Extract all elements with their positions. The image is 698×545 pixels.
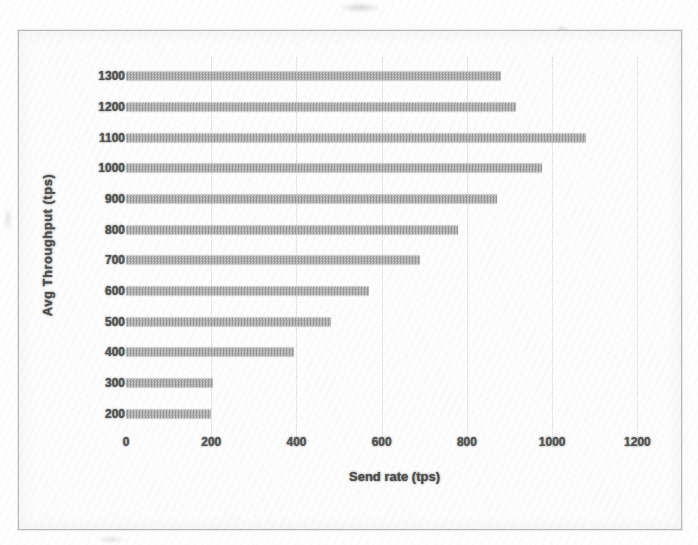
x-axis-tick-labels: 020040060080010001200	[126, 435, 663, 453]
category-label: 700	[77, 245, 125, 276]
plot-area	[126, 61, 663, 429]
bar	[126, 195, 497, 204]
scan-smudge	[338, 3, 382, 12]
y-axis-category-labels: 1300120011001000900800700600500400300200	[77, 61, 125, 429]
x-axis-title: Send rate (tps)	[126, 469, 663, 484]
category-label: 200	[77, 398, 125, 429]
category-label: 800	[77, 214, 125, 245]
x-tick-label: 400	[286, 435, 306, 449]
scan-smudge	[96, 536, 126, 543]
x-tick-label: 800	[457, 435, 477, 449]
bar-row	[126, 153, 663, 184]
x-tick-label: 600	[372, 435, 392, 449]
scan-smudge	[4, 206, 12, 232]
category-label: 600	[77, 276, 125, 307]
bar-row	[126, 61, 663, 92]
category-label: 1300	[77, 61, 125, 92]
bar	[126, 287, 369, 296]
bar-row	[126, 92, 663, 123]
chart-frame: Avg Throughput (tps) 1300120011001000900…	[18, 30, 682, 530]
category-label: 300	[77, 368, 125, 399]
category-label: 1100	[77, 122, 125, 153]
category-label: 900	[77, 184, 125, 215]
bar-row	[126, 245, 663, 276]
bar-row	[126, 276, 663, 307]
bar-row	[126, 368, 663, 399]
bar-row	[126, 122, 663, 153]
bar	[126, 225, 458, 234]
category-label: 1200	[77, 92, 125, 123]
x-tick-label: 1000	[539, 435, 566, 449]
bar-rows	[126, 61, 663, 429]
category-label: 400	[77, 337, 125, 368]
x-tick-label: 0	[123, 435, 130, 449]
bar	[126, 409, 211, 418]
category-label: 1000	[77, 153, 125, 184]
bar-row	[126, 398, 663, 429]
scanned-figure: Avg Throughput (tps) 1300120011001000900…	[0, 0, 698, 545]
bar-row	[126, 184, 663, 215]
bar	[126, 72, 501, 81]
bar	[126, 348, 294, 357]
x-tick-label: 200	[201, 435, 221, 449]
y-axis-title: Avg Throughput (tps)	[40, 174, 55, 316]
bar	[126, 103, 516, 112]
bar	[126, 164, 542, 173]
category-label: 500	[77, 306, 125, 337]
bar	[126, 317, 331, 326]
bar	[126, 133, 586, 142]
bar-row	[126, 337, 663, 368]
bar-row	[126, 214, 663, 245]
bar	[126, 256, 420, 265]
bar	[126, 379, 213, 388]
x-tick-label: 1200	[624, 435, 651, 449]
bar-row	[126, 306, 663, 337]
